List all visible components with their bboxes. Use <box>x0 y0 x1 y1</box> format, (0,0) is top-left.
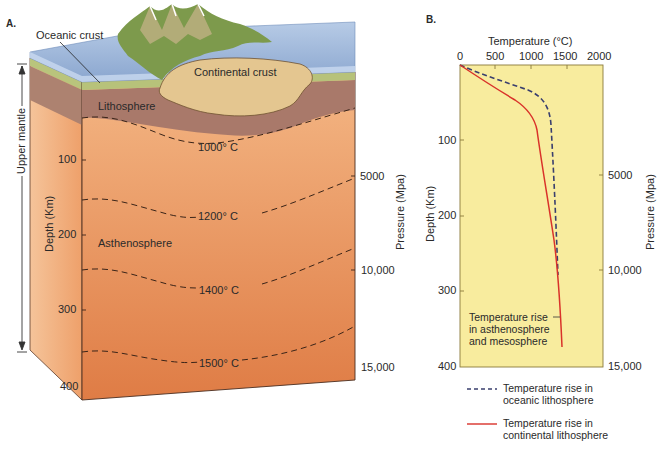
depth-tick-b-100: 100 <box>438 135 456 146</box>
depth-axis-label-b: Depth (Km) <box>425 186 436 242</box>
pressure-tick-b-10000: 10,000 <box>608 265 642 276</box>
legend-oceanic-line-2: oceanic lithosphere <box>503 395 593 406</box>
pressure-axis-label-b: Pressure (Mpa) <box>645 174 656 250</box>
annotation-line-3: and mesosphere <box>469 336 547 347</box>
annotation-line-1: Temperature rise <box>469 312 548 323</box>
legend-continental-line-1: Temperature rise in <box>503 418 593 429</box>
depth-tick-b-400: 400 <box>438 361 456 372</box>
depth-tick-b-200: 200 <box>438 210 456 221</box>
pressure-tick-b-15000: 15,000 <box>608 361 642 372</box>
annotation-line-2: in asthenosphere <box>469 324 550 335</box>
legend-continental-line-2: continental lithosphere <box>503 430 608 441</box>
depth-tick-b-300: 300 <box>438 285 456 296</box>
pressure-tick-b-5000: 5000 <box>608 170 632 181</box>
legend-oceanic-line-1: Temperature rise in <box>503 383 593 394</box>
